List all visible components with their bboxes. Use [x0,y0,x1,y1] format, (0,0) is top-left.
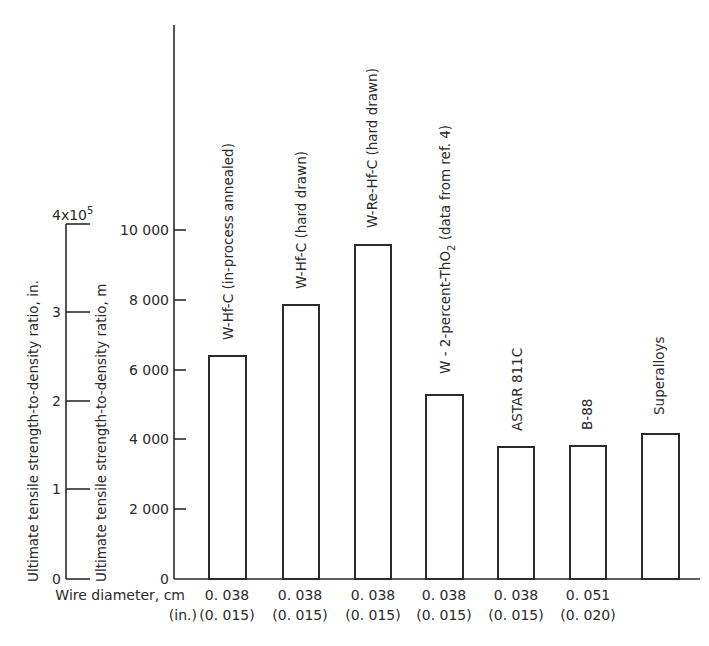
bar-astar-811c [498,447,534,579]
diameter-cm-6: 0. 051 [566,587,611,603]
diameter-cm-3: 0. 038 [351,587,396,603]
diameter-in-3: (0. 015) [345,607,400,623]
secondary-tick-3: 3 [52,304,61,320]
x-axis-labels: Wire diameter, cm (in.) 0. 038 (0. 015) … [55,587,615,623]
bar-label-4: W - 2-percent-ThO2 (data from ref. 4) [437,125,457,374]
secondary-tick-2: 2 [52,393,61,409]
diameter-in-6: (0. 020) [560,607,615,623]
bar-label-6: B-88 [579,399,595,430]
x-axis-title-cm: Wire diameter, cm [55,587,185,603]
bar-w-hf-c-hard-drawn [283,305,319,579]
primary-tick-2000: 2 000 [129,501,169,517]
bar-superalloys [642,434,679,579]
primary-tick-8000: 8 000 [129,292,169,308]
primary-tick-0: 0 [160,571,169,587]
secondary-axis-title: Ultimate tensile strength-to-density rat… [25,280,41,582]
diameter-in-1: (0. 015) [199,607,254,623]
bar-label-1: W-Hf-C (in-process annealed) [220,143,236,340]
primary-y-axis: Ultimate tensile strength-to-density rat… [93,25,700,587]
bar-chart: 0 1 2 3 4x105 Ultimate tensile strength-… [0,0,709,646]
bar-w-hf-c-annealed [209,356,246,579]
diameter-cm-4: 0. 038 [422,587,467,603]
secondary-tick-0: 0 [52,571,61,587]
diameter-in-2: (0. 015) [272,607,327,623]
bar-label-3: W-Re-Hf-C (hard drawn) [364,68,380,228]
secondary-y-axis: 0 1 2 3 4x105 Ultimate tensile strength-… [25,205,93,587]
diameter-cm-5: 0. 038 [494,587,539,603]
bar-label-2: W-Hf-C (hard drawn) [293,151,309,289]
secondary-tick-top: 4x105 [52,205,93,223]
diameter-cm-1: 0. 038 [205,587,250,603]
primary-axis-title: Ultimate tensile strength-to-density rat… [93,284,109,582]
diameter-in-5: (0. 015) [488,607,543,623]
primary-tick-4000: 4 000 [129,431,169,447]
x-axis-title-in: (in.) [169,607,197,623]
diameter-in-4: (0. 015) [416,607,471,623]
primary-tick-6000: 6 000 [129,362,169,378]
bar-w-re-hf-c [355,245,391,579]
bar-label-5: ASTAR 811C [509,348,525,431]
bar-b-88 [570,446,606,579]
primary-tick-10000: 10 000 [120,222,169,238]
secondary-tick-1: 1 [52,481,61,497]
bar-label-7: Superalloys [651,336,667,415]
diameter-cm-2: 0. 038 [278,587,323,603]
bar-w-tho2 [426,395,463,579]
